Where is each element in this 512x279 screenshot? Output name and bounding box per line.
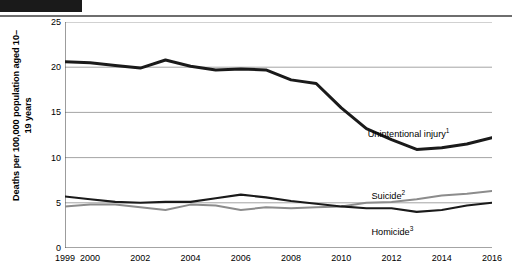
x-tick-label-2010: 2010 xyxy=(331,253,351,263)
y-tick-label-25: 25 xyxy=(51,17,61,27)
x-tick-label-2008: 2008 xyxy=(281,253,301,263)
plot-area: 0510152025 19992000200220042006200820102… xyxy=(65,22,492,248)
x-tick-label-2014: 2014 xyxy=(432,253,452,263)
x-tick-label-2000: 2000 xyxy=(80,253,100,263)
series-label-unintentional-injury: Unintentional injury1 xyxy=(368,127,450,139)
gridlines-group xyxy=(65,22,492,203)
redaction-header-bar xyxy=(0,0,82,12)
x-tick-label-2006: 2006 xyxy=(231,253,251,263)
y-axis-title: Deaths per 100,000 population aged 10–19… xyxy=(11,26,34,206)
x-tick-label-1999: 1999 xyxy=(55,253,75,263)
y-tick-label-20: 20 xyxy=(51,62,61,72)
series-label-homicide: Homicide3 xyxy=(371,225,413,237)
series-line-suicide xyxy=(65,191,492,210)
series-label-suicide: Suicide2 xyxy=(371,189,405,201)
line-chart-figure: Deaths per 100,000 population aged 10–19… xyxy=(0,16,512,279)
x-tick-label-2012: 2012 xyxy=(382,253,402,263)
y-tick-label-15: 15 xyxy=(51,107,61,117)
y-tick-label-5: 5 xyxy=(56,198,61,208)
x-tick-label-2016: 2016 xyxy=(482,253,502,263)
y-tick-label-10: 10 xyxy=(51,153,61,163)
y-tick-label-0: 0 xyxy=(56,243,61,253)
x-tick-label-2004: 2004 xyxy=(181,253,201,263)
x-tick-label-2002: 2002 xyxy=(130,253,150,263)
